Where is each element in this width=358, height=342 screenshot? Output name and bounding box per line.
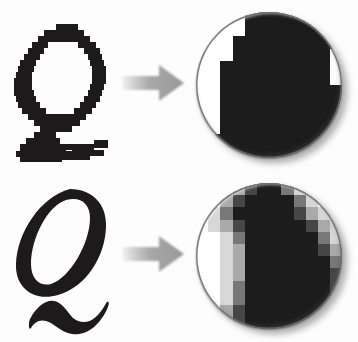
magnified-pixel xyxy=(245,110,258,123)
magnified-pixel xyxy=(269,317,282,329)
magnified-pixel xyxy=(196,85,209,98)
magnified-pixel xyxy=(294,183,307,196)
magnified-pixel xyxy=(220,256,233,269)
aliasing-comparison-figure xyxy=(0,0,358,342)
magnified-pixel xyxy=(294,256,307,269)
magnified-pixel xyxy=(245,195,258,208)
magnified-pixel xyxy=(233,24,246,37)
magnified-pixel xyxy=(257,85,270,98)
magnified-pixel xyxy=(245,293,258,306)
magnified-pixel xyxy=(281,281,294,294)
magnified-pixel xyxy=(294,36,307,49)
magnified-pixel xyxy=(233,122,246,135)
magnified-pixel xyxy=(269,61,282,74)
antialiased-magnifier xyxy=(192,179,352,339)
magnified-pixel xyxy=(294,232,307,245)
magnified-pixel xyxy=(281,195,294,208)
magnified-pixel xyxy=(269,110,282,123)
magnified-pixel xyxy=(257,183,270,196)
magnified-pixel xyxy=(306,183,319,196)
magnified-pixel xyxy=(220,244,233,257)
magnified-pixel xyxy=(208,183,221,196)
magnified-pixel xyxy=(318,36,331,49)
magnified-pixel xyxy=(220,73,233,86)
magnified-pixel xyxy=(233,61,246,74)
magnified-pixel xyxy=(220,281,233,294)
magnified-pixel xyxy=(281,146,294,158)
magnified-pixel xyxy=(220,183,233,196)
magnified-pixel xyxy=(208,268,221,281)
magnified-pixel xyxy=(220,305,233,318)
magnified-pixel xyxy=(245,73,258,86)
magnified-pixel xyxy=(318,61,331,74)
magnified-pixel xyxy=(294,244,307,257)
magnified-pixel xyxy=(269,220,282,233)
magnifier-disc xyxy=(196,183,342,329)
magnified-pixel xyxy=(318,195,331,208)
magnified-pixel xyxy=(318,97,331,110)
magnified-pixel xyxy=(208,61,221,74)
magnified-pixel xyxy=(208,244,221,257)
magnified-pixel xyxy=(294,207,307,220)
magnified-pixel xyxy=(257,207,270,220)
magnified-pixel xyxy=(330,220,342,233)
magnified-pixel xyxy=(294,305,307,318)
magnified-pixel xyxy=(294,317,307,329)
magnified-pixel xyxy=(208,232,221,245)
magnified-pixel xyxy=(257,293,270,306)
magnified-pixel xyxy=(294,146,307,158)
magnified-pixel xyxy=(257,36,270,49)
magnified-pixel xyxy=(330,12,342,25)
magnified-pixel xyxy=(233,97,246,110)
magnified-pixel xyxy=(196,305,209,318)
magnified-pixel xyxy=(318,220,331,233)
magnified-pixel xyxy=(257,122,270,135)
magnified-pixel xyxy=(330,97,342,110)
magnified-pixel xyxy=(269,183,282,196)
magnified-pixel xyxy=(269,207,282,220)
magnified-pixel xyxy=(257,49,270,62)
magnified-pixel xyxy=(330,146,342,158)
magnified-pixel xyxy=(233,183,246,196)
magnified-pixel xyxy=(294,293,307,306)
magnified-pixel xyxy=(318,122,331,135)
magnified-pixel xyxy=(269,134,282,147)
magnified-pixel xyxy=(196,268,209,281)
magnified-pixel xyxy=(330,232,342,245)
magnified-pixel xyxy=(233,85,246,98)
magnified-pixel xyxy=(245,268,258,281)
magnified-pixel xyxy=(306,317,319,329)
magnified-pixel xyxy=(330,24,342,37)
magnified-pixel xyxy=(196,12,209,25)
magnified-pixel xyxy=(220,49,233,62)
magnified-pixel xyxy=(281,12,294,25)
magnified-pixel xyxy=(306,232,319,245)
magnified-pixel xyxy=(330,268,342,281)
magnified-pixel xyxy=(306,110,319,123)
magnified-pixel xyxy=(208,24,221,37)
magnified-pixel xyxy=(196,122,209,135)
magnified-pixel xyxy=(281,24,294,37)
magnified-pixel xyxy=(294,97,307,110)
magnified-pixel xyxy=(208,73,221,86)
magnified-pixel xyxy=(233,305,246,318)
magnified-pixel xyxy=(196,244,209,257)
magnified-pixel xyxy=(294,61,307,74)
magnified-pixel xyxy=(208,317,221,329)
magnified-pixel xyxy=(220,110,233,123)
magnified-pixel xyxy=(294,134,307,147)
magnified-pixel xyxy=(269,305,282,318)
magnified-pixel xyxy=(281,122,294,135)
magnified-pixel xyxy=(281,73,294,86)
magnified-pixel xyxy=(306,97,319,110)
magnified-pixel xyxy=(196,232,209,245)
magnified-pixel xyxy=(330,49,342,62)
magnified-pixel xyxy=(306,73,319,86)
magnified-pixel xyxy=(318,268,331,281)
magnified-pixel xyxy=(257,256,270,269)
magnified-pixel xyxy=(330,110,342,123)
magnified-pixel xyxy=(318,256,331,269)
magnified-pixel xyxy=(257,110,270,123)
magnified-pixel xyxy=(196,293,209,306)
magnified-pixel xyxy=(294,110,307,123)
